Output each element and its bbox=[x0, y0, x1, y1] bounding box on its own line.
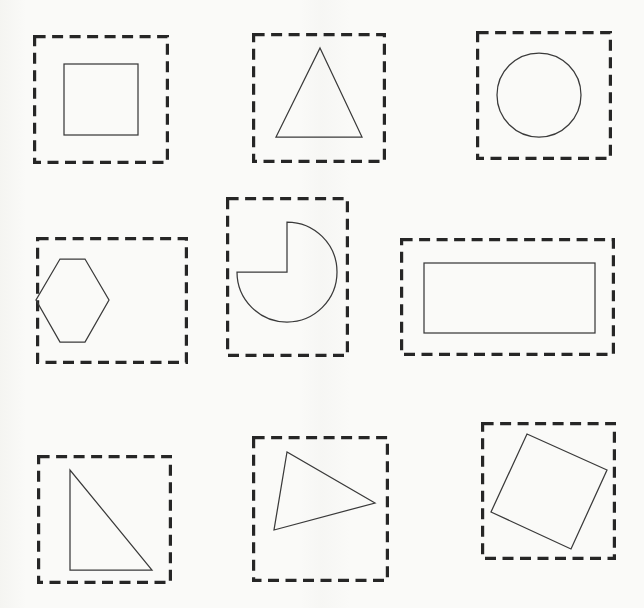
dashed-bounding-box bbox=[254, 438, 388, 581]
dashed-bounding-box bbox=[35, 37, 168, 163]
shape-rectangle-outline[interactable] bbox=[424, 263, 595, 333]
shape-square-rotated-outline[interactable] bbox=[491, 434, 607, 549]
shape-circle-outline[interactable] bbox=[497, 53, 581, 137]
shape-cell-triangle-scalene[interactable] bbox=[252, 436, 389, 582]
shape-triangle-right-outline[interactable] bbox=[70, 470, 152, 570]
shapes-canvas bbox=[0, 0, 644, 608]
shape-cell-rectangle[interactable] bbox=[400, 238, 615, 356]
shape-cell-circle[interactable] bbox=[476, 31, 612, 160]
shape-triangle-equilateral-outline[interactable] bbox=[276, 48, 362, 137]
dashed-bounding-box bbox=[38, 239, 187, 363]
shape-cell-hexagon[interactable] bbox=[36, 237, 188, 364]
shape-cell-pie-three-quarters[interactable] bbox=[226, 197, 349, 357]
shape-cell-triangle-right[interactable] bbox=[37, 455, 172, 584]
dashed-bounding-box bbox=[39, 457, 171, 583]
dashed-bounding-box bbox=[254, 35, 385, 162]
shape-cell-triangle-equilateral[interactable] bbox=[252, 33, 386, 163]
dashed-bounding-box bbox=[402, 240, 614, 355]
shape-hexagon-outline[interactable] bbox=[36, 259, 109, 342]
shape-square-outline[interactable] bbox=[64, 64, 138, 135]
shape-cell-square[interactable] bbox=[33, 35, 169, 164]
shape-pie-three-quarters-outline[interactable] bbox=[237, 222, 337, 322]
shape-cell-square-rotated[interactable] bbox=[481, 422, 616, 560]
shape-triangle-scalene-outline[interactable] bbox=[274, 452, 375, 530]
